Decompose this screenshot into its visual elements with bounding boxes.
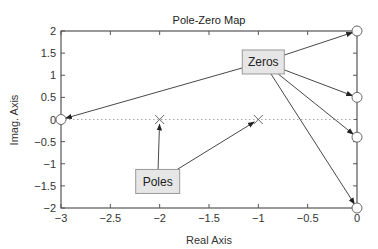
chart-title: Pole-Zero Map bbox=[173, 14, 246, 26]
annotation-arrow bbox=[284, 70, 352, 96]
axes: −3−2.5−2−1.5−1−0.5021.510.50−0.5−1−1.5−2 bbox=[34, 25, 360, 224]
y-tick-label: −1 bbox=[43, 158, 56, 170]
zero-marker bbox=[352, 203, 362, 213]
x-axis-title: Real Axis bbox=[186, 234, 232, 246]
zero-marker bbox=[352, 92, 362, 102]
y-tick-label: −2 bbox=[43, 202, 56, 214]
zero-marker bbox=[352, 26, 362, 36]
x-tick-label: −1.5 bbox=[198, 212, 220, 224]
x-tick-label: 0 bbox=[354, 212, 360, 224]
x-tick-label: −0.5 bbox=[297, 212, 319, 224]
zero-marker bbox=[56, 115, 66, 125]
y-tick-label: −1.5 bbox=[34, 180, 56, 192]
annotation-label-zeros: Zeros bbox=[248, 55, 279, 69]
x-tick-label: −1 bbox=[252, 212, 265, 224]
annotation-arrow bbox=[66, 68, 242, 118]
annotation-arrow bbox=[177, 122, 254, 169]
y-tick-label: −0.5 bbox=[34, 136, 56, 148]
y-tick-label: 0.5 bbox=[41, 91, 56, 103]
annotation-label-poles: Poles bbox=[143, 175, 173, 189]
y-tick-label: 1.5 bbox=[41, 47, 56, 59]
x-tick-label: −2.5 bbox=[99, 212, 121, 224]
annotation-arrow bbox=[278, 74, 353, 134]
zero-marker bbox=[352, 132, 362, 142]
pole-zero-chart: Pole-Zero Map Real Axis Imag. Axis −3−2.… bbox=[0, 0, 378, 249]
x-tick-label: −2 bbox=[153, 212, 166, 224]
annotation-arrows bbox=[66, 33, 354, 204]
annotation-arrow bbox=[158, 124, 159, 169]
y-axis-title: Imag. Axis bbox=[8, 94, 20, 145]
annotation-arrow bbox=[271, 74, 354, 204]
x-tick-label: −3 bbox=[55, 212, 68, 224]
y-tick-label: 1 bbox=[50, 69, 56, 81]
y-tick-label: 0 bbox=[50, 114, 56, 126]
annotation-arrow bbox=[284, 33, 352, 55]
y-tick-label: 2 bbox=[50, 25, 56, 37]
pole-marker bbox=[155, 115, 164, 124]
